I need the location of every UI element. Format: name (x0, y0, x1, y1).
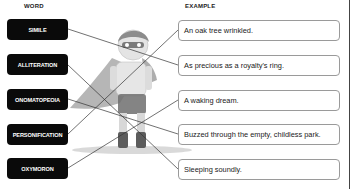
example-box-5[interactable]: Sleeping soundly. (178, 159, 340, 180)
example-column-header: EXAMPLE (185, 3, 215, 9)
example-box-2[interactable]: As precious as a royalty's ring. (178, 55, 340, 76)
word-box-personification[interactable]: PERSONIFICATION (7, 124, 68, 145)
right-border (349, 0, 350, 189)
line-simile (68, 29, 178, 65)
word-box-oxymoron[interactable]: OXYMORON (7, 158, 68, 179)
line-alliteration (68, 65, 178, 169)
line-personification (68, 30, 178, 134)
line-onomatopoeia (68, 99, 178, 134)
example-box-3[interactable]: A waking dream. (178, 90, 340, 111)
line-oxymoron (68, 100, 178, 168)
example-box-1[interactable]: An oak tree wrinkled. (178, 20, 340, 41)
word-box-onomatopoeia[interactable]: ONOMATOPEOIA (7, 89, 68, 110)
word-box-alliteration[interactable]: ALLITERATION (7, 54, 68, 75)
word-box-simile[interactable]: SIMILE (7, 19, 68, 40)
example-box-4[interactable]: Buzzed through the empty, childless park… (178, 124, 340, 145)
word-column-header: WORD (24, 3, 44, 9)
